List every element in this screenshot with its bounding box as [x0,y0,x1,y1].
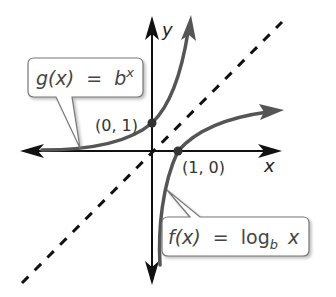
x-axis-label: x [263,155,275,176]
point-0-1 [148,119,157,128]
point-1-0-label: (1, 0) [182,158,225,177]
point-1-0 [174,147,183,156]
graph-canvas: y x (0, 1) (1, 0) g(x) = bx f(x) = logb [0,0,336,297]
y-axis-label: y [161,19,173,40]
point-0-1-label: (0, 1) [95,116,138,135]
inverse-functions-diagram: y x (0, 1) (1, 0) g(x) = bx f(x) = logb [0,0,336,297]
